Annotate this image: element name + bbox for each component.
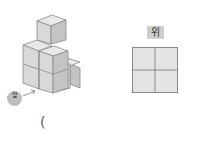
front-label-text: 앞 [12, 91, 18, 98]
front-label-badge: 앞 [7, 91, 22, 106]
arrow-icon [22, 88, 38, 98]
answer-paren: ( [40, 114, 45, 130]
top-view-grid [132, 47, 179, 94]
top-view-label: 위 [147, 26, 164, 39]
